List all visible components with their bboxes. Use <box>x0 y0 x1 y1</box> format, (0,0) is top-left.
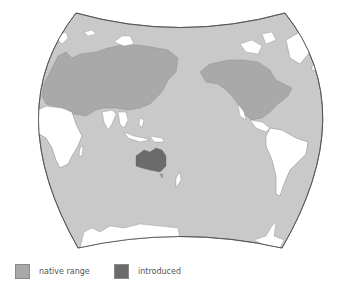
native-range-swatch <box>15 264 30 279</box>
introduced-swatch <box>114 264 129 279</box>
legend-label: native range <box>39 267 90 276</box>
legend-label: introduced <box>138 267 181 276</box>
map-legend: native range introduced <box>0 264 362 284</box>
world-distribution-map <box>0 0 362 255</box>
legend-item-native-range: native range <box>15 264 90 279</box>
legend-item-introduced: introduced <box>114 264 181 279</box>
